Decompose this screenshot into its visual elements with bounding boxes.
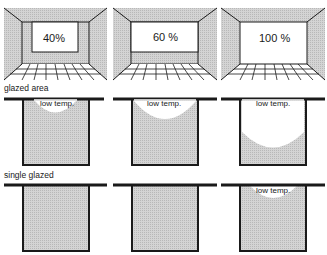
low-temp-label: low temp.	[147, 99, 181, 108]
section-glazed-area	[4, 99, 325, 165]
room-label-60: 60 %	[153, 31, 178, 43]
low-temp-label: low temp.	[256, 99, 290, 108]
room-perspective-100	[221, 8, 325, 80]
room-perspective-60	[113, 8, 217, 80]
section-title-glazed-area: glazed area	[4, 83, 48, 93]
section-title-single-glazed: single glazed	[4, 170, 54, 180]
room-label-40: 40%	[43, 32, 65, 44]
room-perspective-40	[4, 8, 107, 80]
low-temp-label: low temp.	[40, 99, 74, 108]
room-label-100: 100 %	[259, 32, 290, 44]
low-temp-label: low temp.	[256, 186, 290, 195]
